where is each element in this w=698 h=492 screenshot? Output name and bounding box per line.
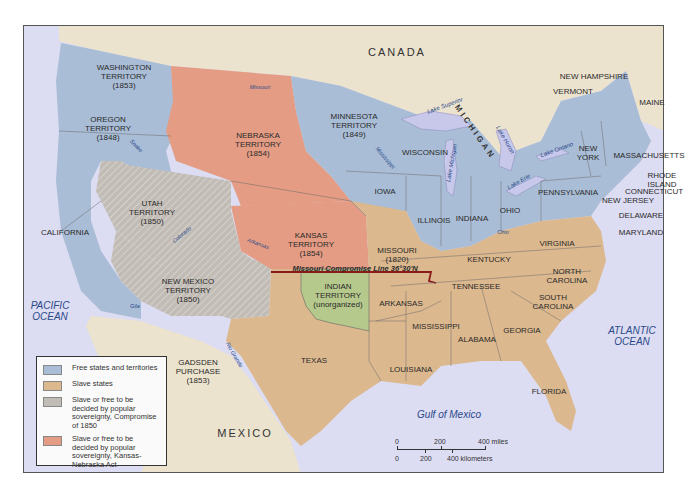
new-mexico-territory-label: NEW MEXICOTERRITORY(1850) bbox=[162, 277, 214, 304]
gila-river-label: Gila bbox=[130, 302, 140, 311]
south-carolina-label: SOUTHCAROLINA bbox=[533, 293, 574, 311]
alabama-label: ALABAMA bbox=[458, 335, 496, 344]
legend-swatch-free bbox=[43, 365, 62, 375]
scale-bar: 0 200 400 miles 0 200 400 kilometers bbox=[395, 438, 515, 468]
connecticut-label: CONNECTICUT bbox=[625, 187, 683, 196]
washington-territory-label: WASHINGTONTERRITORY(1853) bbox=[97, 63, 152, 90]
legend-swatch-compromise-1850 bbox=[43, 397, 62, 407]
mississippi-label: MISSISSIPPI bbox=[412, 322, 460, 331]
kansas-territory-label: KANSASTERRITORY(1854) bbox=[288, 231, 334, 258]
pacific-ocean-label: PACIFICOCEAN bbox=[31, 300, 70, 322]
missouri-compromise-line-label: Missouri Compromise Line 36°30'N bbox=[292, 264, 417, 273]
minnesota-territory-label: MINNESOTATERRITORY(1849) bbox=[331, 112, 378, 139]
wisconsin-label: WISCONSIN bbox=[402, 148, 448, 157]
legend-item-kansas-nebraska: Slave or free to be decided by popular s… bbox=[43, 435, 160, 469]
maine-label: MAINE bbox=[639, 98, 664, 107]
california-label: CALIFORNIA bbox=[41, 228, 89, 237]
tennessee-label: TENNESSEE bbox=[452, 282, 500, 291]
nebraska-territory-label: NEBRASKATERRITORY(1854) bbox=[235, 131, 281, 158]
arkansas-label: ARKANSAS bbox=[379, 299, 423, 308]
indian-territory-label: INDIANTERRITORY(unorganized) bbox=[313, 282, 362, 309]
atlantic-ocean-label: ATLANTICOCEAN bbox=[608, 325, 656, 347]
map-legend: Free states and territories Slave states… bbox=[36, 356, 167, 466]
legend-item-free: Free states and territories bbox=[43, 364, 160, 375]
iowa-label: IOWA bbox=[374, 187, 395, 196]
vermont-label: VERMONT bbox=[553, 87, 593, 96]
mexico-label: MEXICO bbox=[217, 429, 272, 438]
legend-swatch-kansas-nebraska bbox=[43, 436, 62, 446]
florida-label: FLORIDA bbox=[532, 387, 567, 396]
delaware-label: DELAWARE bbox=[619, 211, 663, 220]
new-hampshire-label: NEW HAMPSHIRE bbox=[560, 72, 628, 81]
legend-item-compromise-1850: Slave or free to be decided by popular s… bbox=[43, 396, 160, 430]
virginia-label: VIRGINIA bbox=[539, 239, 574, 248]
illinois-label: ILLINOIS bbox=[418, 216, 451, 225]
gadsden-purchase-label: GADSDENPURCHASE(1853) bbox=[176, 358, 220, 385]
utah-territory-label: UTAHTERRITORY(1850) bbox=[129, 199, 175, 226]
new-york-label: NEWYORK bbox=[577, 144, 600, 162]
canada-label: CANADA bbox=[368, 48, 426, 57]
georgia-label: GEORGIA bbox=[503, 326, 540, 335]
pennsylvania-label: PENNSYLVANIA bbox=[538, 188, 598, 197]
legend-swatch-slave bbox=[43, 381, 62, 391]
texas-label: TEXAS bbox=[301, 356, 327, 365]
north-carolina-label: NORTHCAROLINA bbox=[547, 267, 588, 285]
legend-item-slave: Slave states bbox=[43, 380, 160, 391]
oregon-territory-label: OREGONTERRITORY(1848) bbox=[85, 115, 131, 142]
massachusetts-label: MASSACHUSETTS bbox=[613, 151, 684, 160]
ohio-river-label: Ohio bbox=[497, 228, 509, 237]
ohio-label: OHIO bbox=[500, 206, 520, 215]
indiana-label: INDIANA bbox=[456, 214, 488, 223]
missouri-river-label: Missouri bbox=[250, 83, 270, 92]
gulf-of-mexico-label: Gulf of Mexico bbox=[417, 409, 481, 420]
missouri-label: MISSOURI(1820) bbox=[377, 246, 417, 264]
louisiana-label: LOUISIANA bbox=[390, 365, 433, 374]
new-jersey-label: NEW JERSEY bbox=[602, 196, 654, 205]
kentucky-label: KENTUCKY bbox=[467, 255, 511, 264]
maryland-label: MARYLAND bbox=[619, 228, 663, 237]
